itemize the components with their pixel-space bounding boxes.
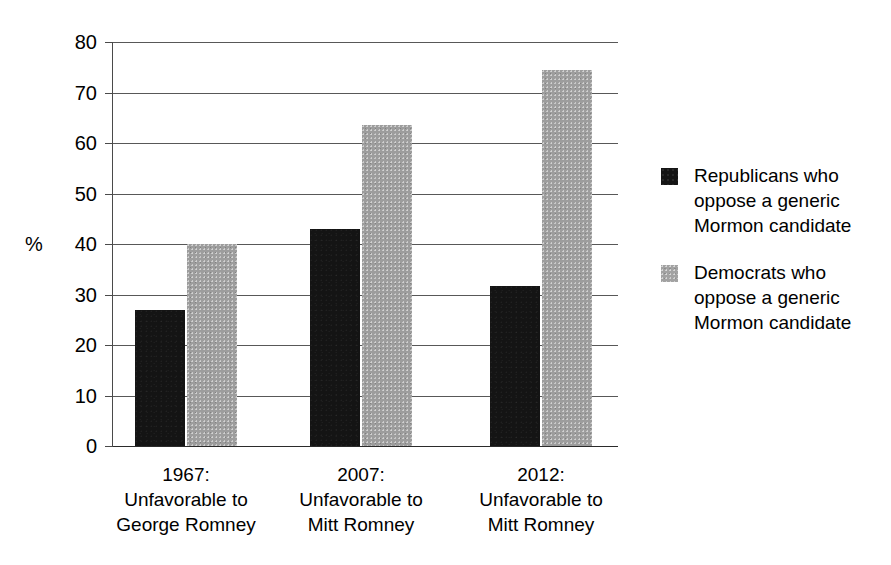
legend-label-line: Mormon candidate (694, 213, 886, 238)
legend: Republicans whooppose a genericMormon ca… (661, 163, 886, 357)
legend-item-democrats[interactable]: Democrats whooppose a genericMormon cand… (661, 260, 886, 335)
y-axis-tick (105, 42, 113, 43)
bar-democrats-group-3 (542, 70, 592, 446)
legend-label-line: Mormon candidate (694, 310, 886, 335)
y-axis-tick-label-text: 20 (37, 335, 97, 355)
y-axis-tick (105, 93, 113, 94)
y-axis-tick-label-text: 40 (37, 234, 97, 254)
y-axis-tick-label-text: 50 (37, 184, 97, 204)
legend-label-line: Democrats who (694, 260, 886, 285)
y-axis-tick (105, 295, 113, 296)
legend-swatch-icon (661, 265, 678, 282)
bar-democrats-group-2 (362, 125, 412, 446)
plot-area (113, 42, 618, 446)
y-axis-tick-label-text: 80 (37, 32, 97, 52)
y-axis-tick (105, 244, 113, 245)
y-axis-tick-label-text: 10 (37, 386, 97, 406)
bar-republicans-group-1 (135, 310, 185, 446)
y-axis-tick-label-text: 60 (37, 133, 97, 153)
y-axis-tick (105, 345, 113, 346)
legend-label-line: Republicans who (694, 163, 886, 188)
y-axis-tick-label-text: 0 (37, 436, 97, 456)
y-axis-tick-label-text: 70 (37, 83, 97, 103)
bar-republicans-group-3 (490, 286, 540, 446)
y-axis-tick (105, 194, 113, 195)
legend-swatch-icon (661, 168, 678, 185)
y-axis-tick (105, 446, 113, 447)
legend-label-line: oppose a generic (694, 285, 886, 310)
y-axis-tick (105, 143, 113, 144)
x-axis-label-line: Mitt Romney (431, 512, 651, 537)
y-axis-tick (105, 396, 113, 397)
chart-figure: % 80706050403020100 1967:Unfavorable toG… (0, 0, 891, 565)
gridline (113, 42, 618, 43)
x-axis-label-group-3: 2012:Unfavorable toMitt Romney (431, 462, 651, 537)
legend-item-republicans[interactable]: Republicans whooppose a genericMormon ca… (661, 163, 886, 238)
x-axis-label-line: Unfavorable to (431, 487, 651, 512)
bar-democrats-group-1 (187, 244, 237, 446)
legend-label-line: oppose a generic (694, 188, 886, 213)
x-axis-baseline (113, 446, 618, 447)
x-axis-label-line: 2012: (431, 462, 651, 487)
bar-republicans-group-2 (310, 229, 360, 446)
y-axis-tick-label-text: 30 (37, 285, 97, 305)
